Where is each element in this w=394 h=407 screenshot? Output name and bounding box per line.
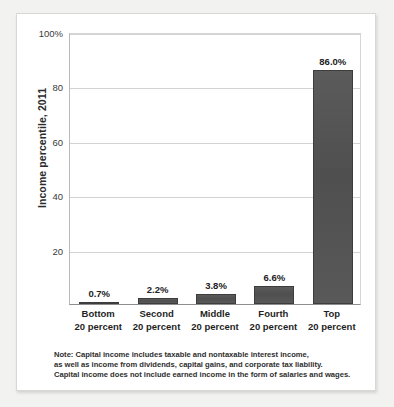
bar-slot: 6.6%: [245, 34, 303, 304]
bar-value-label: 86.0%: [299, 56, 367, 67]
x-category-label-line2: 20 percent: [303, 321, 361, 334]
bar-value-label: 6.6%: [240, 272, 308, 283]
x-category-label: Top20 percent: [303, 308, 361, 333]
bar-slot: 0.7%: [70, 34, 128, 304]
y-tick-label: 100%: [9, 28, 63, 39]
note-line-2: as well as income from dividends, capita…: [54, 360, 354, 370]
x-category-label-line1: Second: [127, 308, 185, 321]
y-tick-label: 40: [9, 191, 63, 202]
x-category-label-line1: Middle: [186, 308, 244, 321]
note-line-1: Note: Capital income includes taxable an…: [54, 350, 354, 360]
bar-slot: 86.0%: [304, 34, 362, 304]
bar[interactable]: [79, 302, 119, 304]
bar[interactable]: [254, 286, 294, 304]
x-category-label: Fourth20 percent: [244, 308, 302, 333]
x-category-label-line1: Top: [303, 308, 361, 321]
figure-card: Income percentile, 2011 100%80604020 0.7…: [16, 13, 376, 391]
x-category-label-line2: 20 percent: [69, 321, 127, 334]
x-category-label-line2: 20 percent: [186, 321, 244, 334]
note-line-3: Capital income does not include earned i…: [54, 370, 354, 380]
bar-slot: 3.8%: [187, 34, 245, 304]
bar-slot: 2.2%: [128, 34, 186, 304]
bar[interactable]: [138, 298, 178, 304]
x-category-label: Bottom20 percent: [69, 308, 127, 333]
x-category-label: Middle20 percent: [186, 308, 244, 333]
bar[interactable]: [313, 70, 353, 304]
x-category-label-line1: Bottom: [69, 308, 127, 321]
chart-note: Note: Capital income includes taxable an…: [54, 350, 354, 381]
y-tick-label: 60: [9, 136, 63, 147]
x-category-label-line1: Fourth: [244, 308, 302, 321]
y-tick-label: 80: [9, 82, 63, 93]
bar[interactable]: [196, 294, 236, 304]
plot-area: 0.7%2.2%3.8%6.6%86.0%: [69, 33, 361, 305]
x-category-label-line2: 20 percent: [127, 321, 185, 334]
x-category-label-line2: 20 percent: [244, 321, 302, 334]
x-axis-category-labels: Bottom20 percentSecond20 percentMiddle20…: [69, 308, 361, 342]
y-tick-label: 20: [9, 245, 63, 256]
x-category-label: Second20 percent: [127, 308, 185, 333]
